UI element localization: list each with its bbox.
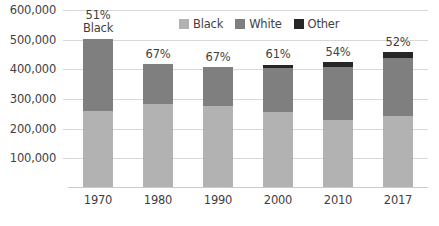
x-tick-label: 2010 <box>324 193 352 207</box>
x-axis: 197019801990200020102017 <box>68 193 428 219</box>
axis-baseline <box>68 187 428 188</box>
y-tick-label: 300,000 <box>10 92 56 106</box>
bar-segment-white[interactable] <box>143 64 173 104</box>
bar-data-label: 61% <box>263 48 293 61</box>
x-tick-label: 1990 <box>204 193 232 207</box>
bar-data-label: 67% <box>143 48 173 61</box>
bar-segment-black[interactable] <box>263 112 293 187</box>
legend-item-other[interactable]: Other <box>290 17 344 31</box>
bar-group[interactable]: 67% <box>143 64 173 187</box>
y-tick-label: 600,000 <box>10 3 56 17</box>
bar-segment-white[interactable] <box>203 67 233 106</box>
legend-item-white[interactable]: White <box>231 17 285 31</box>
legend-label: Black <box>193 17 223 31</box>
bar-segment-black[interactable] <box>323 120 353 187</box>
y-tick-label: 400,000 <box>10 62 56 76</box>
bar-segment-white[interactable] <box>83 39 113 112</box>
bar-segment-white[interactable] <box>263 68 293 112</box>
stacked-bar-chart: 100,000200,000300,000400,000500,000600,0… <box>0 0 439 226</box>
bar-segment-black[interactable] <box>83 111 113 187</box>
bar-segment-other[interactable] <box>383 52 413 58</box>
bar-data-label-value: 52% <box>383 36 413 49</box>
legend-swatch-white <box>235 19 245 29</box>
bar-segment-white[interactable] <box>323 67 353 120</box>
bar-segment-black[interactable] <box>203 106 233 187</box>
legend-swatch-other <box>294 19 304 29</box>
legend-swatch-black <box>179 19 189 29</box>
bar-data-label-value: 54% <box>323 46 353 59</box>
bar-segment-black[interactable] <box>143 104 173 187</box>
bar-data-label-sublabel: Black <box>83 22 113 35</box>
bar-data-label: 54% <box>323 46 353 59</box>
x-tick-label: 2017 <box>384 193 412 207</box>
legend-label: Other <box>308 17 340 31</box>
bar-group[interactable]: 51%Black <box>83 39 113 187</box>
legend-item-black[interactable]: Black <box>175 17 227 31</box>
bar-group[interactable]: 67% <box>203 67 233 187</box>
legend-label: White <box>249 17 281 31</box>
bar-group[interactable]: 52% <box>383 52 413 187</box>
bar-group[interactable]: 54% <box>323 62 353 187</box>
bar-group[interactable]: 61% <box>263 64 293 187</box>
bar-segment-black[interactable] <box>383 116 413 187</box>
bar-data-label: 51%Black <box>83 9 113 35</box>
x-tick-label: 2000 <box>264 193 292 207</box>
bar-segment-other[interactable] <box>323 62 353 66</box>
bar-data-label: 67% <box>203 51 233 64</box>
bar-segment-white[interactable] <box>383 58 413 116</box>
y-axis: 100,000200,000300,000400,000500,000600,0… <box>0 0 62 226</box>
bar-data-label-value: 67% <box>143 48 173 61</box>
x-tick-label: 1970 <box>84 193 112 207</box>
chart-legend: BlackWhiteOther <box>172 16 346 32</box>
y-tick-label: 100,000 <box>10 151 56 165</box>
plot-area: 51%Black67%67%61%54%52% <box>68 10 428 188</box>
bar-segment-other[interactable] <box>263 65 293 69</box>
bar-data-label-value: 61% <box>263 48 293 61</box>
bar-data-label: 52% <box>383 36 413 49</box>
bars-layer: 51%Black67%67%61%54%52% <box>68 10 428 188</box>
y-tick-label: 500,000 <box>10 33 56 47</box>
y-tick-label: 200,000 <box>10 122 56 136</box>
bar-data-label-value: 67% <box>203 51 233 64</box>
x-tick-label: 1980 <box>144 193 172 207</box>
